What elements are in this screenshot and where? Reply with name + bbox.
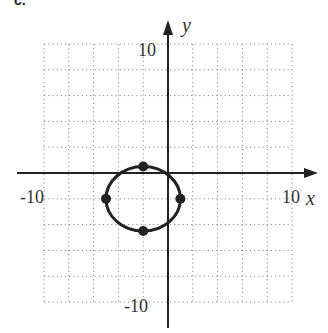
x-axis-label: x [305,187,315,209]
x-tick-label-right: 10 [282,187,300,207]
x-axis-arrow-icon [304,168,318,178]
ellipse-vertex-point [175,194,185,204]
ellipse-vertex-point [138,162,148,172]
y-tick-label-top: 10 [138,40,156,60]
x-tick-label-left: -10 [20,187,44,207]
ellipse-vertex-point [101,194,111,204]
y-axis-arrow-icon [163,20,173,35]
y-tick-label-bottom: -10 [124,296,148,316]
ellipse-vertex-point [138,226,148,236]
y-axis-label: y [180,14,191,37]
ellipse-graph: yx10-10-1010 [0,0,328,333]
